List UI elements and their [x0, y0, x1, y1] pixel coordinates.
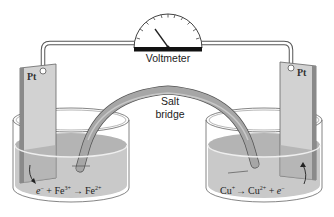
voltmeter-label: Voltmeter	[146, 52, 191, 64]
wire-right	[198, 43, 291, 68]
voltmeter: Voltmeter	[134, 14, 202, 64]
svg-text:bridge: bridge	[155, 108, 184, 120]
wire-left	[43, 43, 137, 71]
left-pt-electrode: Pt	[20, 64, 56, 183]
right-electrode-label: Pt	[297, 67, 307, 78]
right-reaction: Cu+→Cu2+ + e−	[220, 185, 285, 196]
right-pt-electrode: Pt	[280, 62, 316, 180]
electrochemical-cell-diagram: Voltmeter Salt bridge Pt Pt	[0, 0, 334, 217]
voltmeter-base	[134, 47, 202, 52]
left-electrode-label: Pt	[27, 71, 37, 82]
svg-text:Salt: Salt	[161, 95, 179, 107]
salt-bridge-label: Salt bridge	[155, 95, 184, 120]
